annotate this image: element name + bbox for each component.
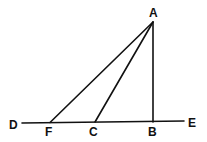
- label-D: D: [9, 118, 18, 132]
- label-B: B: [148, 125, 157, 139]
- segment-AF: [50, 22, 153, 123]
- label-A: A: [149, 6, 158, 20]
- label-E: E: [188, 116, 196, 130]
- segment-AC: [95, 22, 153, 122]
- label-F: F: [45, 125, 52, 139]
- line-DE: [22, 121, 184, 123]
- geometry-diagram: A D F C B E: [0, 0, 207, 142]
- label-C: C: [89, 125, 98, 139]
